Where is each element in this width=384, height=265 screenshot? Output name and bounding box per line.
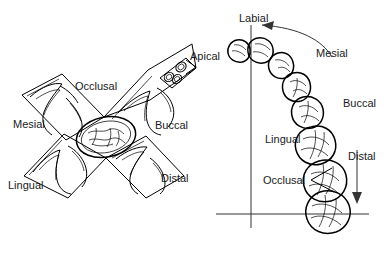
figure-artwork: [0, 0, 384, 265]
label-distal-arch: Distal: [348, 150, 376, 162]
label-buccal-unfolded: Buccal: [155, 119, 188, 131]
label-distal-unfolded: Distal: [161, 172, 189, 184]
label-lingual-arch: Lingual: [265, 133, 300, 145]
label-lingual-unfolded: Lingual: [8, 179, 43, 191]
label-labial-arch: Labial: [239, 12, 268, 24]
label-mesial-arch: Mesial: [316, 47, 348, 59]
label-apical-unfolded: Apical: [190, 50, 220, 62]
tooth-third-molar: [306, 191, 350, 234]
dental-orientation-figure: Occlusal Mesial Buccal Lingual Distal Ap…: [0, 0, 384, 265]
label-mesial-unfolded: Mesial: [13, 118, 45, 130]
occlusal-surface-center: [72, 111, 139, 163]
tooth-central-incisor: [228, 40, 250, 62]
label-occlusal-unfolded: Occlusal: [75, 80, 117, 92]
arm-distal: [106, 136, 184, 198]
tooth-second-premolar: [292, 97, 324, 129]
label-buccal-arch: Buccal: [343, 97, 376, 109]
tooth-first-molar: [295, 126, 335, 165]
label-occlusal-arch: Occlusal: [263, 174, 305, 186]
